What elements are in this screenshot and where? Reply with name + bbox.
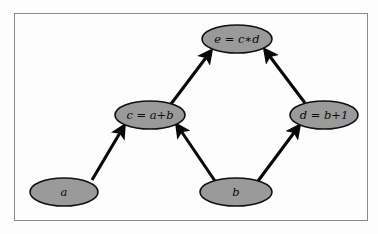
node-d[interactable]: d = b+1 (290, 101, 358, 129)
edge-d-to-e (265, 50, 305, 103)
node-e-label: e = c∗d (214, 32, 259, 46)
node-c-label: c = a+b (126, 108, 173, 122)
computation-graph: e = c∗d c = a+b d = b+1 a b (0, 0, 378, 234)
node-d-label: d = b+1 (300, 108, 349, 122)
edge-b-to-d (258, 126, 299, 181)
node-a-label: a (61, 185, 68, 199)
node-layer: e = c∗d c = a+b d = b+1 a b (30, 25, 358, 206)
node-e[interactable]: e = c∗d (202, 25, 272, 53)
node-b-label: b (232, 185, 239, 199)
edge-b-to-c (177, 125, 215, 181)
node-b[interactable]: b (200, 178, 272, 206)
edge-a-to-c (92, 126, 124, 180)
node-a[interactable]: a (30, 178, 98, 206)
edge-c-to-e (171, 51, 211, 104)
figure-root: e = c∗d c = a+b d = b+1 a b (0, 0, 378, 234)
node-c[interactable]: c = a+b (115, 101, 185, 129)
